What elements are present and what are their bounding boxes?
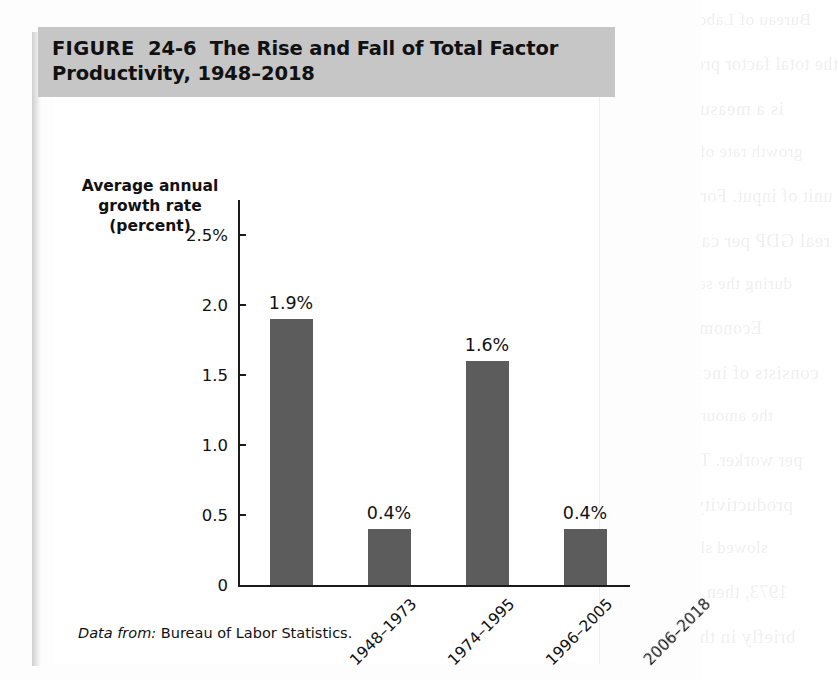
y-tick-mark: [238, 514, 246, 516]
source-note: Data from: Bureau of Labor Statistics.: [78, 625, 352, 641]
x-axis-category-label: 1996–2005: [542, 595, 616, 669]
y-tick-mark: [238, 374, 246, 376]
y-tick-label: 1.5: [148, 366, 228, 385]
bar: [270, 319, 313, 585]
figure-title-bar: FIGURE 24-6 The Rise and Fall of Total F…: [38, 27, 615, 97]
y-tick-label: 2.5%: [148, 226, 228, 245]
figure-number: 24-6: [148, 37, 196, 60]
bar: [466, 361, 509, 585]
figure-body: Average annual growth rate (percent) 00.…: [54, 97, 600, 664]
bar: [368, 529, 411, 585]
figure-title: FIGURE 24-6 The Rise and Fall of Total F…: [52, 36, 601, 86]
figure-title-spacer-2: [196, 37, 209, 60]
figure-container: FIGURE 24-6 The Rise and Fall of Total F…: [38, 27, 615, 664]
x-axis-line: [238, 585, 630, 587]
source-note-lead: Data from:: [78, 625, 156, 641]
bar-value-label: 1.6%: [465, 335, 509, 355]
y-tick-label: 1.0: [148, 436, 228, 455]
figure-title-spacer: [135, 37, 148, 60]
bar-value-label: 0.4%: [563, 503, 607, 523]
y-tick-mark: [238, 444, 246, 446]
y-tick-label: 2.0: [148, 296, 228, 315]
y-tick-mark: [238, 234, 246, 236]
bar-chart-plot-area: Average annual growth rate (percent) 00.…: [54, 97, 600, 617]
bar-value-label: 0.4%: [367, 503, 411, 523]
x-axis-category-label: 1974–1995: [444, 595, 518, 669]
y-tick-label: 0: [148, 576, 228, 595]
y-axis-title-line-1: Average annual: [74, 176, 226, 196]
x-axis-category-label: 1948–1973: [346, 595, 420, 669]
bar: [564, 529, 607, 585]
y-tick-mark: [238, 304, 246, 306]
y-axis-line: [238, 200, 240, 586]
y-tick-label: 0.5: [148, 506, 228, 525]
source-note-text: Bureau of Labor Statistics.: [161, 625, 352, 641]
bar-value-label: 1.9%: [269, 293, 313, 313]
figure-label: FIGURE: [52, 37, 135, 60]
y-axis-title-line-2: growth rate: [74, 196, 226, 216]
